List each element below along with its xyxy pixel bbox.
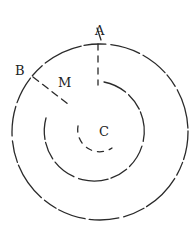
label-b: B [15, 64, 25, 77]
middle-circle [44, 82, 144, 181]
label-m: M [58, 76, 71, 89]
label-a: A [95, 24, 104, 37]
label-c: C [99, 125, 109, 138]
concentric-circles-diagram: A B M C [0, 0, 192, 240]
